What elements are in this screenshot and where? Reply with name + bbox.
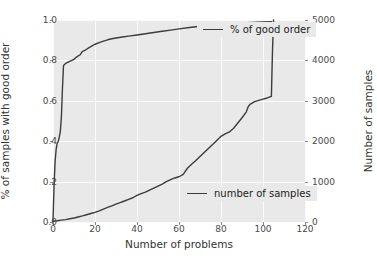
- legend-line-swatch-number-of-samples: [187, 193, 207, 194]
- tick-label-y-right: 0: [312, 217, 318, 227]
- tick-mark-y-right: [305, 141, 308, 142]
- tick-mark-y-right: [305, 101, 308, 102]
- tick-mark-y-right: [305, 60, 308, 61]
- legend-label-good-order: % of good order: [230, 24, 310, 35]
- legend-line-swatch-good-order: [203, 29, 223, 30]
- tick-label-x: 60: [173, 224, 184, 234]
- tick-label-y-left: 0.6: [43, 96, 57, 106]
- x-axis-title: Number of problems: [125, 238, 233, 250]
- tick-label-y-left: 0.8: [43, 55, 57, 65]
- legend-number-of-samples: number of samples: [181, 186, 317, 201]
- legend-label-number-of-samples: number of samples: [214, 188, 311, 199]
- tick-label-y-left: 0.4: [43, 136, 57, 146]
- tick-mark-y-right: [305, 20, 308, 21]
- tick-label-x: 40: [131, 224, 142, 234]
- tick-label-y-right: 4000: [312, 55, 335, 65]
- tick-label-y-left: 0.0: [43, 217, 57, 227]
- y-axis-title-left: % of samples with good order: [0, 21, 11, 221]
- tick-label-y-left: 1.0: [43, 15, 57, 25]
- tick-label-y-right: 3000: [312, 96, 335, 106]
- y-axis-title-right: Number of samples: [362, 21, 374, 221]
- legend-good-order: % of good order: [197, 22, 316, 37]
- tick-label-y-right: 2000: [312, 136, 335, 146]
- tick-label-x: 100: [254, 224, 271, 234]
- tick-label-x: 20: [89, 224, 100, 234]
- tick-mark-y-right: [305, 222, 308, 223]
- tick-mark-y-right: [305, 182, 308, 183]
- tick-label-y-left: 0.2: [43, 177, 57, 187]
- tick-label-x: 80: [215, 224, 226, 234]
- chart-figure: 0204060801001200.00.20.40.60.81.00100020…: [0, 0, 377, 259]
